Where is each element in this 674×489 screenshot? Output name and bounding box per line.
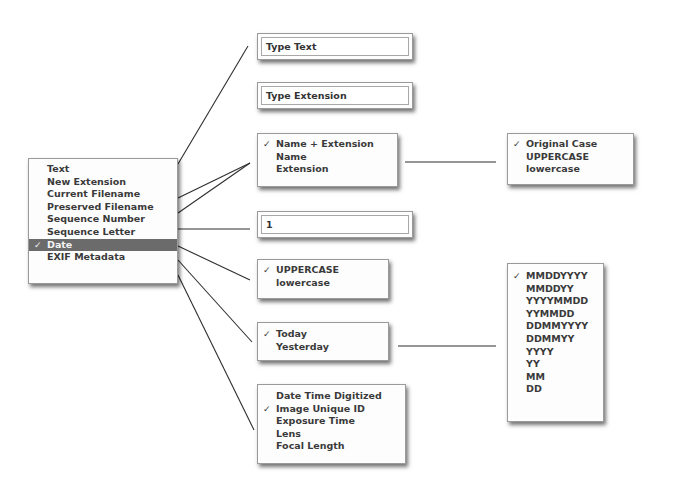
- menu-item-current-filename[interactable]: Current Filename: [29, 188, 177, 201]
- date-menu: ✓Today Yesterday: [257, 322, 389, 361]
- filename-menu: ✓Name + Extension Name Extension: [257, 133, 398, 187]
- menu-item-name-extension[interactable]: ✓Name + Extension: [258, 138, 397, 151]
- source-menu: Text New Extension Current Filename Pres…: [28, 158, 178, 284]
- menu-item-new-extension[interactable]: New Extension: [29, 176, 177, 189]
- case-menu: ✓Original Case UPPERCASE lowercase: [507, 133, 634, 185]
- menu-item-yyyy[interactable]: YYYY: [508, 346, 603, 359]
- extension-input[interactable]: Type Extension: [261, 86, 409, 105]
- checkmark-icon: ✓: [513, 270, 521, 283]
- menu-item-mmddyyyy[interactable]: ✓MMDDYYYY: [508, 270, 603, 283]
- menu-item-lens[interactable]: Lens: [258, 428, 405, 441]
- date-format-menu: ✓MMDDYYYY MMDDYY YYYYMMDD YYMMDD DDMMYYY…: [507, 263, 604, 422]
- connector-date-to-datemenu: [178, 260, 252, 342]
- menu-item-letter-uppercase[interactable]: ✓UPPERCASE: [258, 264, 388, 277]
- connector-exif-to-exifmenu: [178, 275, 254, 430]
- menu-item-ddmmyyyy[interactable]: DDMMYYYY: [508, 320, 603, 333]
- menu-item-today[interactable]: ✓Today: [258, 328, 388, 341]
- checkmark-icon: ✓: [263, 138, 271, 151]
- menu-item-exif-metadata[interactable]: EXIF Metadata: [29, 251, 177, 264]
- menu-item-name[interactable]: Name: [258, 151, 397, 164]
- exif-menu: Date Time Digitized ✓Image Unique ID Exp…: [257, 384, 406, 464]
- checkmark-icon: ✓: [263, 264, 271, 277]
- connector-current-to-filename: [178, 163, 250, 213]
- checkmark-icon: ✓: [34, 239, 42, 252]
- menu-item-yymmdd[interactable]: YYMMDD: [508, 308, 603, 321]
- menu-item-ddmmyy[interactable]: DDMMYY: [508, 333, 603, 346]
- text-input[interactable]: Type Text: [261, 37, 409, 56]
- menu-item-date[interactable]: ✓Date: [29, 239, 177, 252]
- sequence-number-input[interactable]: 1: [261, 215, 409, 234]
- menu-item-letter-lowercase[interactable]: lowercase: [258, 277, 388, 290]
- connector-seqletter-to-case: [178, 246, 250, 280]
- connector-text-to-textfield: [178, 46, 248, 164]
- menu-item-dd[interactable]: DD: [508, 383, 603, 396]
- menu-item-original-case[interactable]: ✓Original Case: [508, 138, 633, 151]
- menu-item-mmddyy[interactable]: MMDDYY: [508, 283, 603, 296]
- menu-item-date-time-digitized[interactable]: Date Time Digitized: [258, 390, 405, 403]
- checkmark-icon: ✓: [263, 403, 271, 416]
- menu-item-image-unique-id[interactable]: ✓Image Unique ID: [258, 403, 405, 416]
- menu-item-sequence-number[interactable]: Sequence Number: [29, 213, 177, 226]
- letter-case-menu: ✓UPPERCASE lowercase: [257, 259, 389, 299]
- menu-item-preserved-filename[interactable]: Preserved Filename: [29, 201, 177, 214]
- menu-item-exposure-time[interactable]: Exposure Time: [258, 415, 405, 428]
- menu-item-yy[interactable]: YY: [508, 358, 603, 371]
- menu-item-uppercase[interactable]: UPPERCASE: [508, 151, 633, 164]
- menu-item-focal-length[interactable]: Focal Length: [258, 440, 405, 453]
- checkmark-icon: ✓: [513, 138, 521, 151]
- menu-item-sequence-letter[interactable]: Sequence Letter: [29, 226, 177, 239]
- checkmark-icon: ✓: [263, 328, 271, 341]
- menu-item-yesterday[interactable]: Yesterday: [258, 341, 388, 354]
- menu-item-text[interactable]: Text: [29, 163, 177, 176]
- menu-item-extension[interactable]: Extension: [258, 163, 397, 176]
- sequence-number-box: 1: [257, 211, 413, 238]
- text-field-box: Type Text: [257, 33, 413, 60]
- extension-field-box: Type Extension: [257, 82, 413, 109]
- menu-item-lowercase[interactable]: lowercase: [508, 163, 633, 176]
- menu-item-mm[interactable]: MM: [508, 371, 603, 384]
- menu-item-yyyymmdd[interactable]: YYYYMMDD: [508, 295, 603, 308]
- connector-newext-to-filename: [178, 163, 250, 198]
